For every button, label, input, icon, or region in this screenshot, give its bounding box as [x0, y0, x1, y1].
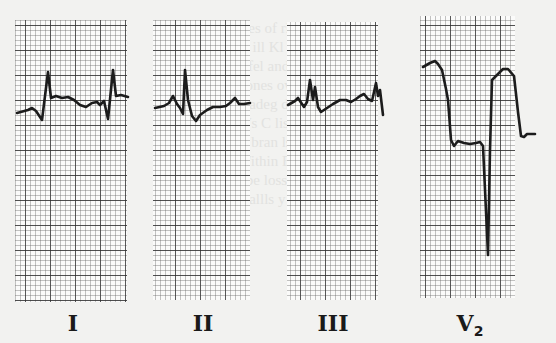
- ecg-figure: [0, 0, 556, 343]
- grid-panel-II: [153, 20, 250, 300]
- lead-label-V2-main: V: [457, 310, 474, 336]
- grid-panel-I: [15, 20, 127, 302]
- lead-label-III: III: [305, 310, 361, 336]
- grid-panel-V2: [420, 16, 515, 298]
- grid-panel-III: [287, 22, 378, 300]
- lead-label-II: II: [180, 310, 226, 336]
- lead-label-V2-subscript: 2: [474, 323, 484, 339]
- lead-label-V2: V2: [442, 310, 498, 339]
- lead-label-I: I: [50, 310, 96, 336]
